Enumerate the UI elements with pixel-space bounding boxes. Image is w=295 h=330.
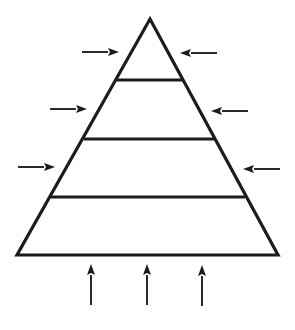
left-arrow-1 [82,48,119,56]
arrowhead-icon [143,264,151,275]
arrowhead-icon [87,264,95,275]
pyramid-outline [17,19,278,255]
arrowhead-icon [211,107,222,115]
right-arrow-1 [180,49,217,57]
right-arrow-2 [211,107,248,115]
arrowhead-icon [44,163,55,171]
left-arrow-2 [50,105,87,113]
arrowhead-icon [76,105,87,113]
pyramid-diagram [0,0,295,330]
arrowhead-icon [198,265,206,276]
arrowhead-icon [180,49,191,57]
bottom-arrow-2 [143,264,151,305]
bottom-arrow-3 [198,265,206,306]
arrowhead-icon [108,48,119,56]
left-arrow-3 [18,163,55,171]
bottom-upward-arrows [87,264,206,306]
right-arrow-3 [243,165,280,173]
arrowhead-icon [243,165,254,173]
bottom-arrow-1 [87,264,95,305]
